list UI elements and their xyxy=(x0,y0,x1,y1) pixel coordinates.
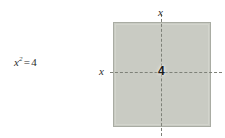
geometry-figure: x2=4 x x 4 xyxy=(0,0,225,138)
area-label-4: 4 xyxy=(158,65,165,77)
equation-exponent: 2 xyxy=(19,55,23,63)
side-label-left-x: x xyxy=(99,66,104,77)
horizontal-center-dashed-line xyxy=(110,72,222,73)
side-label-top-x: x xyxy=(158,7,163,18)
equation-relation: = xyxy=(24,56,30,68)
equation-value: 4 xyxy=(31,56,37,68)
equation-x-squared-equals-4: x2=4 xyxy=(14,56,37,68)
